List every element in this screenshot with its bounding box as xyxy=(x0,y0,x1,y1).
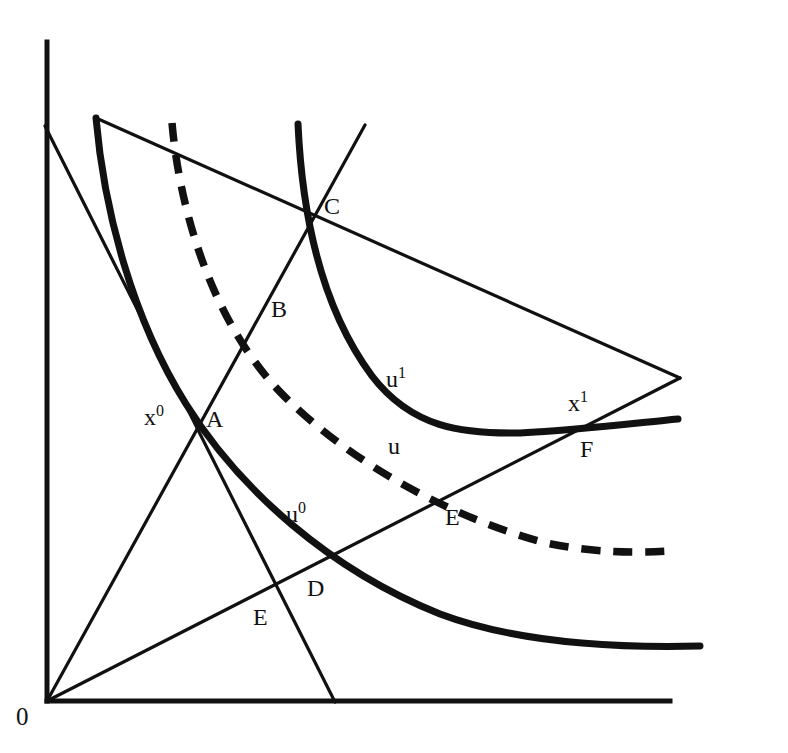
curve-u-label: u xyxy=(388,434,400,458)
curve-u0-superscript: 0 xyxy=(298,499,306,516)
point-a-label: A xyxy=(206,407,223,431)
point-d-label: D xyxy=(307,576,324,600)
budget-x0-superscript: 0 xyxy=(156,402,164,419)
budget-x1-label: x1 xyxy=(568,391,588,415)
indifference-curve-u1 xyxy=(298,124,678,433)
figure-canvas: 0 x0 A B C D E E F u0 u1 u x1 xyxy=(0,0,788,753)
point-f-label: F xyxy=(580,437,593,461)
budget-x1-base: x xyxy=(568,390,580,416)
budget-x1-superscript: 1 xyxy=(580,388,588,405)
point-b-label: B xyxy=(271,297,287,321)
budget-x0-base: x xyxy=(144,404,156,430)
point-e-lower-label: E xyxy=(253,605,268,629)
budget-x0-label: x0 xyxy=(144,405,164,429)
curve-u1-superscript: 1 xyxy=(398,364,406,381)
point-e-right-label: E xyxy=(445,505,460,529)
budget-line-x1 xyxy=(96,118,680,378)
curve-u0-label: u0 xyxy=(286,502,306,526)
origin-label: 0 xyxy=(16,704,29,729)
curve-u0-base: u xyxy=(286,501,298,527)
point-c-label: C xyxy=(324,194,340,218)
curve-u1-label: u1 xyxy=(386,367,406,391)
curve-u1-base: u xyxy=(386,366,398,392)
